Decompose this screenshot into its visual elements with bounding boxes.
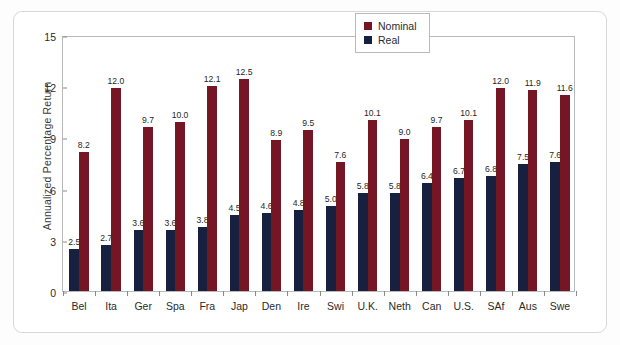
x-tick-label: Aus (519, 300, 537, 312)
legend-swatch-nominal-icon (364, 22, 372, 30)
y-tick-label: 15 (44, 31, 63, 43)
x-tick-mark (287, 291, 288, 296)
legend-item-nominal: Nominal (364, 19, 417, 33)
y-tick-label: 0 (50, 287, 63, 299)
y-tick-label: 6 (50, 185, 63, 197)
legend-swatch-real-icon (364, 36, 372, 44)
bar-value-label: 8.2 (78, 140, 90, 150)
bar-nominal: 9.7 (143, 127, 153, 291)
bar-real: 6.8 (486, 176, 496, 291)
x-tick-label: Jap (231, 300, 248, 312)
x-tick-label: Ire (297, 300, 309, 312)
bar-group: 5.810.1 (358, 37, 377, 291)
bar-value-label: 12.0 (492, 76, 509, 86)
bar-value-label: 7.6 (334, 150, 346, 160)
bar-value-label: 9.5 (302, 118, 314, 128)
x-tick-label: SAf (487, 300, 504, 312)
bar-group: 2.712.0 (101, 37, 120, 291)
bars-layer: 2.58.22.712.03.69.73.610.03.812.14.512.5… (63, 37, 574, 291)
bar-real: 2.7 (101, 245, 111, 291)
bar-value-label: 9.0 (398, 127, 410, 137)
bar-value-label: 12.0 (108, 76, 125, 86)
bar-real: 2.5 (69, 249, 79, 291)
bar-group: 3.610.0 (166, 37, 185, 291)
x-tick-mark (63, 291, 64, 296)
bar-value-label: 9.7 (142, 115, 154, 125)
bar-real: 5.0 (326, 206, 336, 291)
bar-group: 3.69.7 (134, 37, 153, 291)
chart-figure: Annualized Percentage Return 03691215 2.… (0, 0, 620, 345)
bar-nominal: 12.0 (111, 88, 121, 291)
bar-value-label: 10.0 (172, 110, 189, 120)
y-tick-label: 12 (44, 82, 63, 94)
bar-nominal: 7.6 (336, 162, 346, 291)
x-tick-label: U.S. (454, 300, 474, 312)
x-tick-mark (448, 291, 449, 296)
bar-real: 3.6 (134, 230, 144, 291)
bar-value-label: 12.1 (204, 74, 221, 84)
x-tick-mark (255, 291, 256, 296)
bar-nominal: 10.0 (175, 122, 185, 291)
bar-real: 3.8 (198, 227, 208, 291)
bar-value-label: 10.1 (364, 108, 381, 118)
bar-group: 6.812.0 (486, 37, 505, 291)
x-tick-mark (352, 291, 353, 296)
x-tick-mark (320, 291, 321, 296)
bar-nominal: 10.1 (464, 120, 474, 291)
bar-value-label: 9.7 (431, 115, 443, 125)
bar-group: 4.68.9 (262, 37, 281, 291)
x-tick-mark (480, 291, 481, 296)
bar-nominal: 10.1 (368, 120, 378, 291)
x-tick-label: Den (262, 300, 281, 312)
legend-label-real: Real (378, 34, 400, 46)
bar-real: 5.8 (358, 193, 368, 291)
bar-nominal: 12.1 (207, 86, 217, 291)
bar-group: 4.512.5 (230, 37, 249, 291)
bar-nominal: 8.9 (271, 140, 281, 291)
x-tick-mark (191, 291, 192, 296)
x-tick-mark (223, 291, 224, 296)
bar-nominal: 9.5 (303, 130, 313, 291)
x-tick-label: U.K. (357, 300, 377, 312)
legend-label-nominal: Nominal (378, 20, 417, 32)
bar-real: 4.8 (294, 210, 304, 291)
bar-group: 7.511.9 (518, 37, 537, 291)
x-tick-mark (576, 291, 577, 296)
bar-nominal: 11.6 (560, 95, 570, 291)
x-tick-label: Ger (134, 300, 152, 312)
bar-real: 6.4 (422, 183, 432, 291)
x-tick-mark (159, 291, 160, 296)
x-tick-label: Neth (389, 300, 411, 312)
bar-group: 2.58.2 (69, 37, 88, 291)
bar-real: 5.8 (390, 193, 400, 291)
bar-real: 7.6 (550, 162, 560, 291)
bar-nominal: 9.7 (432, 127, 442, 291)
bar-value-label: 10.1 (460, 108, 477, 118)
y-tick-label: 3 (50, 236, 63, 248)
x-tick-label: Swi (327, 300, 344, 312)
bar-nominal: 12.0 (496, 88, 506, 291)
bar-nominal: 11.9 (528, 90, 538, 292)
x-tick-mark (544, 291, 545, 296)
bar-group: 6.710.1 (454, 37, 473, 291)
x-tick-mark (416, 291, 417, 296)
bar-group: 5.07.6 (326, 37, 345, 291)
bar-nominal: 9.0 (400, 139, 410, 291)
bar-real: 4.5 (230, 215, 240, 291)
bar-real: 3.6 (166, 230, 176, 291)
x-tick-mark (384, 291, 385, 296)
x-tick-mark (512, 291, 513, 296)
bar-real: 6.7 (454, 178, 464, 291)
bar-value-label: 12.5 (236, 67, 253, 77)
bar-value-label: 11.6 (557, 83, 573, 93)
bar-nominal: 8.2 (79, 152, 89, 291)
x-tick-mark (127, 291, 128, 296)
y-tick-label: 9 (50, 133, 63, 145)
bar-group: 6.49.7 (422, 37, 441, 291)
bar-real: 7.5 (518, 164, 528, 291)
chart-legend: Nominal Real (355, 13, 430, 53)
x-tick-mark (95, 291, 96, 296)
bar-value-label: 11.9 (525, 78, 541, 88)
bar-value-label: 8.9 (270, 128, 282, 138)
bar-group: 7.611.6 (550, 37, 569, 291)
